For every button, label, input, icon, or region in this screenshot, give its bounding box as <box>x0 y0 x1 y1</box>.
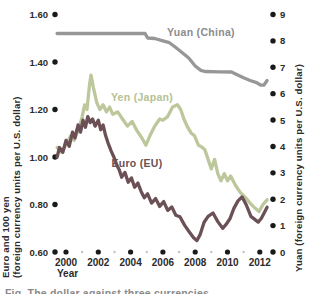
x-minor-tick-dot <box>113 251 115 253</box>
right-axis-title-text: Yuan (foreign currency units per U.S. do… <box>293 64 304 272</box>
left-tick-label: 1.20 <box>30 104 49 115</box>
x-major-tick-dot <box>225 249 230 254</box>
yuan-china-line <box>57 34 267 86</box>
left-tick-dot <box>52 202 57 207</box>
left-axis-ticks: 1.601.401.201.000.800.60 <box>30 9 58 258</box>
x-year-label: 2006 <box>152 257 175 268</box>
left-tick-dot <box>52 107 57 112</box>
truncated-caption: Fig. The dollar against three currencies <box>5 287 305 294</box>
left-axis-title-line1: Euro and 100 yen <box>0 196 11 278</box>
x-minor-tick-dot <box>210 251 212 253</box>
left-tick-dot <box>52 59 57 64</box>
left-tick-dot <box>52 249 57 254</box>
left-tick-label: 1.40 <box>30 57 49 68</box>
x-major-tick-dot <box>96 249 101 254</box>
left-tick-label: 0.60 <box>30 247 49 258</box>
right-tick-dot <box>270 117 275 122</box>
x-year-label: 2004 <box>119 257 142 268</box>
euro-series-label: Euro (EU) <box>111 157 162 169</box>
euro-eu-line <box>57 117 267 241</box>
x-major-tick-dot <box>193 249 198 254</box>
x-year-label: 2000 <box>55 257 78 268</box>
right-tick-label: 8 <box>280 35 285 46</box>
right-tick-label: 4 <box>280 141 286 152</box>
left-tick-label: 1.00 <box>30 152 49 163</box>
right-tick-dot <box>270 65 275 70</box>
right-tick-dot <box>270 12 275 17</box>
right-axis-title: Yuan (foreign currency units per U.S. do… <box>293 64 304 272</box>
x-year-label: 2010 <box>216 257 239 268</box>
left-tick-label: 1.60 <box>30 9 49 20</box>
right-axis-ticks: 9876543210 <box>270 9 286 258</box>
x-minor-tick-dot <box>178 251 180 253</box>
right-tick-label: 7 <box>280 62 285 73</box>
left-axis-title-line2: (foreign currency units per U.S. dollar) <box>11 96 22 278</box>
x-year-label: 2008 <box>184 257 207 268</box>
right-tick-label: 5 <box>280 115 286 126</box>
right-tick-dot <box>270 170 275 175</box>
right-tick-dot <box>270 223 275 228</box>
left-tick-dot <box>52 12 57 17</box>
x-year-label: 2002 <box>87 257 110 268</box>
x-axis-ticks: 2000200220042006200820102012 <box>55 249 271 268</box>
right-tick-label: 6 <box>280 88 285 99</box>
left-axis-title: Euro and 100 yen (foreign currency units… <box>0 96 22 278</box>
x-major-tick-dot <box>257 249 262 254</box>
yuan-series-label: Yuan (China) <box>167 26 235 38</box>
right-tick-dot <box>270 91 275 96</box>
right-tick-dot <box>270 144 275 149</box>
yen-series-label: Yen (Japan) <box>111 91 173 103</box>
right-tick-label: 0 <box>280 247 285 258</box>
x-major-tick-dot <box>160 249 165 254</box>
right-tick-label: 2 <box>280 194 285 205</box>
left-tick-label: 0.80 <box>30 199 49 210</box>
right-tick-dot <box>270 197 275 202</box>
right-tick-label: 3 <box>280 167 285 178</box>
x-minor-tick-dot <box>81 251 83 253</box>
x-axis-title: Year <box>57 268 78 279</box>
x-major-tick-dot <box>128 249 133 254</box>
x-major-tick-dot <box>63 249 68 254</box>
chart-canvas: 1.601.401.201.000.800.60 9876543210 2000… <box>0 0 313 294</box>
series-lines <box>57 34 267 241</box>
right-tick-dot <box>270 249 275 254</box>
exchange-rate-chart: 1.601.401.201.000.800.60 9876543210 2000… <box>0 0 313 294</box>
x-minor-tick-dot <box>242 251 244 253</box>
right-tick-label: 9 <box>280 9 285 20</box>
right-tick-label: 1 <box>280 220 286 231</box>
x-year-label: 2012 <box>249 257 272 268</box>
right-tick-dot <box>270 38 275 43</box>
x-minor-tick-dot <box>146 251 148 253</box>
